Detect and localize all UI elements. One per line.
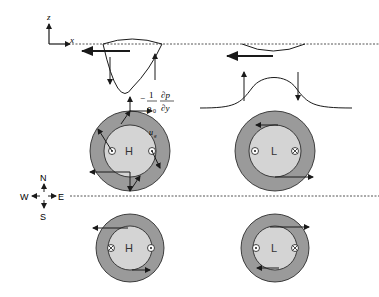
center-label: H	[125, 242, 133, 254]
surface-bulge	[103, 39, 162, 44]
eddy-diagram: z x − 1 ρ 0 ∂p ∂y H	[0, 0, 379, 297]
center-label: H	[125, 145, 133, 157]
center-label: L	[271, 242, 277, 254]
left-vertical-profile	[82, 39, 162, 94]
z-axis-label: z	[46, 12, 51, 22]
fraction-denominator-2: ∂y	[161, 103, 169, 113]
eddy-top-right-low: L	[235, 111, 315, 191]
velocity-label: u	[149, 128, 153, 137]
compass: N S E W	[20, 173, 64, 222]
eddy-top-left-high: H u g	[90, 97, 170, 191]
surface-depression	[242, 44, 305, 51]
eddy-bottom-left-high: H	[93, 214, 164, 282]
east-label: E	[58, 192, 64, 202]
center-label: L	[271, 145, 277, 157]
south-label: S	[40, 212, 46, 222]
eddy-bottom-right-low: L	[241, 214, 309, 282]
north-label: N	[40, 173, 47, 183]
west-label: W	[20, 192, 29, 202]
coordinate-axes: z x	[46, 12, 74, 45]
right-vertical-profile	[200, 44, 352, 108]
isopycnal-dome	[200, 78, 352, 109]
minus-sign: −	[140, 93, 145, 103]
fraction-numerator-2: ∂p	[161, 90, 170, 100]
rho-subscript: 0	[153, 108, 156, 114]
fraction-numerator-1: 1	[149, 90, 154, 100]
pressure-gradient-label: − 1 ρ 0 ∂p ∂y	[140, 90, 174, 114]
